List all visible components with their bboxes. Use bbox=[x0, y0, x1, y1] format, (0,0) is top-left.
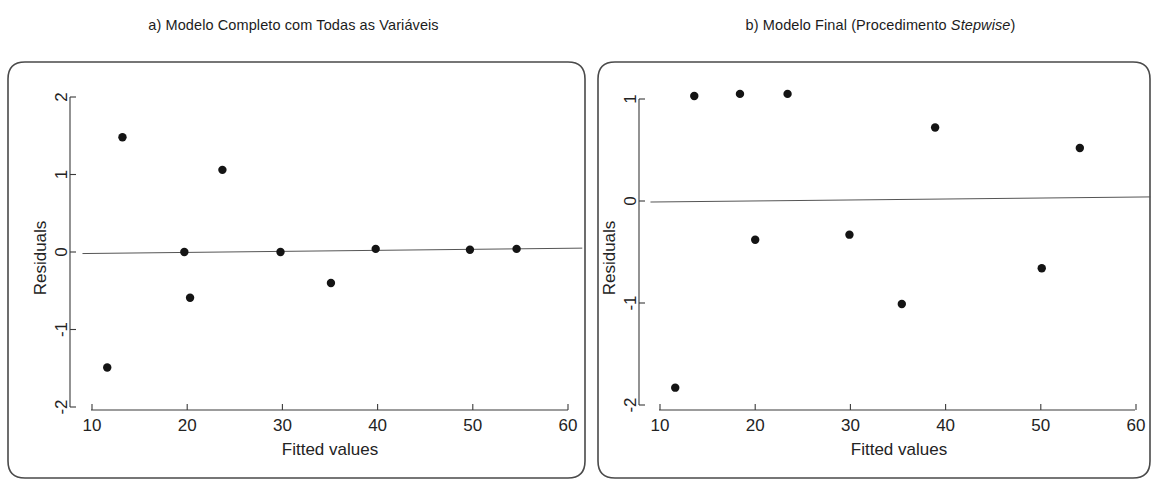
data-point bbox=[276, 248, 284, 256]
x-tick-label: 60 bbox=[1127, 416, 1146, 435]
y-tick-label: 2 bbox=[52, 92, 71, 101]
data-point bbox=[186, 294, 194, 302]
data-point bbox=[180, 248, 188, 256]
y-tick-label: -1 bbox=[621, 295, 640, 310]
panel-b-plot: -2-101102030405060ResidualsFitted values bbox=[587, 0, 1174, 493]
x-tick-label: 30 bbox=[273, 416, 292, 435]
data-point bbox=[118, 133, 126, 141]
y-tick-label: 0 bbox=[52, 247, 71, 256]
y-tick-label: -2 bbox=[52, 399, 71, 414]
data-point bbox=[931, 123, 939, 131]
x-tick-label: 10 bbox=[651, 416, 670, 435]
x-tick-label: 50 bbox=[1031, 416, 1050, 435]
panel-a-plot: -2-1012102030405060ResidualsFitted value… bbox=[0, 0, 587, 493]
data-point bbox=[736, 90, 744, 98]
data-point bbox=[690, 92, 698, 100]
panel-modelo-final: b) Modelo Final (Procedimento Stepwise) … bbox=[587, 0, 1174, 493]
data-point bbox=[751, 236, 759, 244]
x-tick-label: 60 bbox=[559, 416, 578, 435]
x-tick-label: 20 bbox=[178, 416, 197, 435]
data-point bbox=[671, 383, 679, 391]
x-tick-label: 40 bbox=[936, 416, 955, 435]
y-tick-label: -2 bbox=[621, 397, 640, 412]
data-point bbox=[466, 245, 474, 253]
zero-reference-line bbox=[650, 197, 1150, 202]
y-tick-label: 0 bbox=[621, 196, 640, 205]
x-tick-label: 50 bbox=[463, 416, 482, 435]
zero-reference-line bbox=[82, 248, 582, 253]
x-tick-label: 10 bbox=[83, 416, 102, 435]
x-tick-label: 20 bbox=[746, 416, 765, 435]
panel-model-completo: a) Modelo Completo com Todas as Variávei… bbox=[0, 0, 587, 493]
x-tick-label: 40 bbox=[368, 416, 387, 435]
y-tick-label: 1 bbox=[52, 170, 71, 179]
data-point bbox=[327, 279, 335, 287]
data-point bbox=[845, 230, 853, 238]
data-point bbox=[218, 166, 226, 174]
y-axis-title: Residuals bbox=[600, 221, 619, 296]
y-axis-title: Residuals bbox=[31, 221, 50, 296]
data-point bbox=[898, 300, 906, 308]
data-point bbox=[783, 90, 791, 98]
data-point bbox=[103, 363, 111, 371]
data-point bbox=[372, 245, 380, 253]
residual-plots-figure: a) Modelo Completo com Todas as Variávei… bbox=[0, 0, 1174, 493]
data-point bbox=[512, 245, 520, 253]
x-tick-label: 30 bbox=[841, 416, 860, 435]
x-axis-title: Fitted values bbox=[851, 440, 947, 459]
data-point bbox=[1076, 144, 1084, 152]
x-axis-title: Fitted values bbox=[282, 440, 378, 459]
y-tick-label: 1 bbox=[621, 94, 640, 103]
y-tick-label: -1 bbox=[52, 322, 71, 337]
data-point bbox=[1038, 264, 1046, 272]
